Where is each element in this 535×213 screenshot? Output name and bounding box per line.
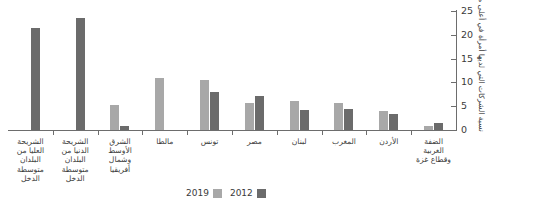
bar-2019 [110,105,119,130]
bar-chart: 0510152025 الشريحة العليا من البلدان متو… [0,0,535,213]
x-axis-category-label: الشريحة العليا من البلدان متوسطة الدخل [8,137,53,183]
x-axis-category-label: مالطا [142,137,187,146]
bar-2012 [344,109,353,130]
y-axis-line [456,10,457,131]
x-axis-tick [98,131,99,135]
bar-group [8,11,53,130]
y-axis-title: نسبة الشركات التي لديها أمرأة في أعلى من… [469,2,485,132]
legend-item: 2019 [186,188,222,198]
bar-group [142,11,187,130]
y-axis-tick [451,82,456,83]
x-axis-category-label: مصر [232,137,277,146]
x-axis-category-label: الضفة الغربية وقطاع غزة [411,137,456,165]
chart-legend: 20192012 [186,188,266,198]
x-axis-tick [322,131,323,135]
legend-swatch [213,189,222,198]
x-axis-tick [277,131,278,135]
legend-swatch [257,189,266,198]
bar-group [232,11,277,130]
legend-label: 2012 [230,188,253,198]
x-axis-category-label: تونس [187,137,232,146]
x-axis-category-label: الأردن [366,137,411,146]
bar-2019 [379,111,388,130]
bar-group [53,11,98,130]
y-axis-tick [451,11,456,12]
x-axis-tick [411,131,412,135]
bar-2012 [255,96,264,130]
bar-2012 [76,18,85,130]
bar-2012 [210,92,219,130]
bar-2012 [300,110,309,130]
bar-group [411,11,456,130]
bar-2019 [334,103,343,130]
bar-2012 [389,114,398,130]
x-axis-tick [187,131,188,135]
bar-group [187,11,232,130]
x-axis-category-label: الشريحة الدنيا من البلدان متوسطة الدخل [53,137,98,183]
y-axis-tick [451,35,456,36]
legend-item: 2012 [230,188,266,198]
bar-2012 [434,123,443,130]
x-axis-tick [232,131,233,135]
x-axis-category-label: لبنان [277,137,322,146]
bar-2019 [290,101,299,130]
bar-group [98,11,143,130]
bar-group [277,11,322,130]
x-axis-tick [366,131,367,135]
bar-group [322,11,367,130]
bar-2019 [245,103,254,130]
x-axis-category-label: الشرق الأوسط وشمال أفريقيا [98,137,143,174]
plot-area [8,11,456,130]
x-axis-category-label: المغرب [322,137,367,146]
y-axis-tick [451,130,456,131]
x-axis-tick [142,131,143,135]
bar-2019 [155,78,164,130]
bar-group [366,11,411,130]
y-axis-tick [451,106,456,107]
x-axis-tick [53,131,54,135]
legend-label: 2019 [186,188,209,198]
y-axis-tick [451,59,456,60]
bar-2012 [31,28,40,130]
bar-2019 [200,80,209,130]
